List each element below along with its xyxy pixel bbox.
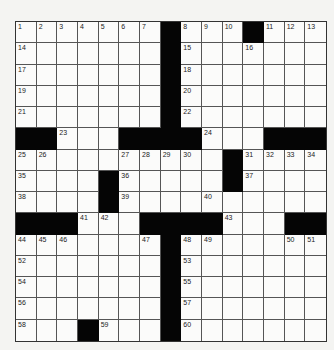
grid-cell[interactable] (119, 86, 140, 107)
grid-cell[interactable] (78, 277, 99, 298)
grid-cell[interactable]: 54 (16, 277, 37, 298)
grid-cell[interactable]: 21 (16, 107, 37, 128)
grid-cell[interactable] (243, 213, 264, 234)
grid-cell[interactable]: 56 (16, 298, 37, 319)
grid-cell[interactable]: 17 (16, 65, 37, 86)
grid-cell[interactable]: 57 (181, 298, 202, 319)
grid-cell[interactable]: 20 (181, 86, 202, 107)
grid-cell[interactable] (99, 65, 120, 86)
grid-cell[interactable] (181, 192, 202, 213)
grid-cell[interactable] (223, 65, 244, 86)
grid-cell[interactable]: 32 (264, 150, 285, 171)
grid-cell[interactable] (223, 256, 244, 277)
grid-cell[interactable] (202, 150, 223, 171)
grid-cell[interactable]: 1 (16, 22, 37, 43)
grid-cell[interactable] (305, 256, 326, 277)
grid-cell[interactable] (119, 320, 140, 341)
grid-cell[interactable] (78, 192, 99, 213)
grid-cell[interactable]: 15 (181, 43, 202, 64)
grid-cell[interactable]: 38 (16, 192, 37, 213)
grid-cell[interactable] (223, 128, 244, 149)
grid-cell[interactable] (223, 277, 244, 298)
grid-cell[interactable] (202, 320, 223, 341)
grid-cell[interactable] (37, 277, 58, 298)
grid-cell[interactable] (264, 298, 285, 319)
grid-cell[interactable] (181, 171, 202, 192)
grid-cell[interactable] (223, 86, 244, 107)
grid-cell[interactable]: 47 (140, 235, 161, 256)
grid-cell[interactable] (285, 298, 306, 319)
grid-cell[interactable]: 44 (16, 235, 37, 256)
grid-cell[interactable] (264, 86, 285, 107)
grid-cell[interactable] (243, 192, 264, 213)
grid-cell[interactable] (57, 65, 78, 86)
grid-cell[interactable] (37, 192, 58, 213)
grid-cell[interactable] (78, 298, 99, 319)
grid-cell[interactable] (243, 256, 264, 277)
grid-cell[interactable]: 43 (223, 213, 244, 234)
grid-cell[interactable] (140, 192, 161, 213)
grid-cell[interactable] (99, 277, 120, 298)
grid-cell[interactable] (99, 298, 120, 319)
grid-cell[interactable]: 9 (202, 22, 223, 43)
grid-cell[interactable] (223, 107, 244, 128)
grid-cell[interactable]: 34 (305, 150, 326, 171)
grid-cell[interactable]: 58 (16, 320, 37, 341)
grid-cell[interactable]: 40 (202, 192, 223, 213)
grid-cell[interactable]: 31 (243, 150, 264, 171)
grid-cell[interactable] (99, 128, 120, 149)
grid-cell[interactable]: 14 (16, 43, 37, 64)
grid-cell[interactable] (243, 320, 264, 341)
grid-cell[interactable]: 27 (119, 150, 140, 171)
grid-cell[interactable] (305, 320, 326, 341)
grid-cell[interactable] (37, 107, 58, 128)
grid-cell[interactable] (243, 235, 264, 256)
grid-cell[interactable]: 53 (181, 256, 202, 277)
grid-cell[interactable]: 42 (99, 213, 120, 234)
grid-cell[interactable] (78, 256, 99, 277)
grid-cell[interactable] (202, 256, 223, 277)
grid-cell[interactable]: 46 (57, 235, 78, 256)
grid-cell[interactable] (57, 150, 78, 171)
grid-cell[interactable]: 8 (181, 22, 202, 43)
grid-cell[interactable] (285, 65, 306, 86)
grid-cell[interactable] (57, 256, 78, 277)
grid-cell[interactable] (264, 213, 285, 234)
grid-cell[interactable] (140, 65, 161, 86)
grid-cell[interactable] (202, 86, 223, 107)
grid-cell[interactable]: 10 (223, 22, 244, 43)
grid-cell[interactable] (119, 298, 140, 319)
grid-cell[interactable] (202, 277, 223, 298)
grid-cell[interactable] (161, 171, 182, 192)
grid-cell[interactable] (78, 150, 99, 171)
grid-cell[interactable]: 37 (243, 171, 264, 192)
grid-cell[interactable]: 16 (243, 43, 264, 64)
grid-cell[interactable]: 26 (37, 150, 58, 171)
grid-cell[interactable] (140, 43, 161, 64)
grid-cell[interactable] (119, 65, 140, 86)
grid-cell[interactable] (264, 256, 285, 277)
grid-cell[interactable] (78, 107, 99, 128)
grid-cell[interactable] (57, 320, 78, 341)
grid-cell[interactable] (57, 107, 78, 128)
grid-cell[interactable]: 30 (181, 150, 202, 171)
grid-cell[interactable]: 41 (78, 213, 99, 234)
grid-cell[interactable] (243, 65, 264, 86)
grid-cell[interactable] (285, 320, 306, 341)
grid-cell[interactable] (285, 277, 306, 298)
grid-cell[interactable] (305, 107, 326, 128)
grid-cell[interactable] (119, 235, 140, 256)
grid-cell[interactable] (202, 65, 223, 86)
grid-cell[interactable] (78, 235, 99, 256)
grid-cell[interactable] (285, 86, 306, 107)
grid-cell[interactable]: 59 (99, 320, 120, 341)
grid-cell[interactable] (57, 171, 78, 192)
grid-cell[interactable]: 19 (16, 86, 37, 107)
grid-cell[interactable]: 60 (181, 320, 202, 341)
grid-cell[interactable] (119, 213, 140, 234)
grid-cell[interactable]: 3 (57, 22, 78, 43)
grid-cell[interactable]: 6 (119, 22, 140, 43)
grid-cell[interactable] (78, 171, 99, 192)
grid-cell[interactable] (140, 256, 161, 277)
grid-cell[interactable] (140, 320, 161, 341)
